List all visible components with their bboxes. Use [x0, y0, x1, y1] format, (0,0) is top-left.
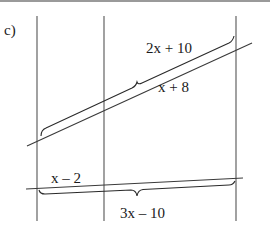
label-bottom-left: x – 2: [51, 170, 81, 186]
label-top-segment: x + 8: [158, 79, 189, 95]
top-brace: [41, 36, 234, 136]
label-top-brace: 2x + 10: [146, 40, 192, 56]
label-bottom-brace: 3x – 10: [120, 205, 165, 221]
parallel-lines-diagram: c) 2x + 10 x + 8 x – 2 3x – 10: [0, 0, 270, 239]
part-label: c): [4, 22, 16, 39]
upper-transversal-line: [27, 43, 252, 146]
